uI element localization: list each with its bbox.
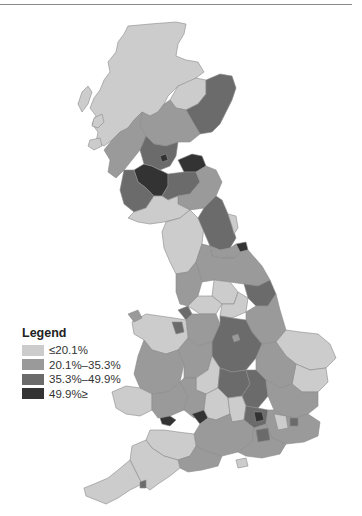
region-london-inner (254, 412, 264, 422)
legend-swatch (22, 345, 44, 356)
region-mull (88, 138, 102, 150)
region-isle-of-wight (236, 458, 248, 468)
map-legend: Legend ≤20.1% 20.1%–35.3% 35.3%–49.9% 49… (22, 326, 121, 401)
legend-item-class-4: 49.9%≥ (22, 387, 121, 401)
region-cornwall (84, 460, 142, 504)
legend-label: ≤20.1% (49, 344, 88, 356)
gb-choropleth-map (0, 0, 362, 516)
legend-item-class-1: ≤20.1% (22, 343, 121, 357)
region-cardiff (160, 416, 176, 426)
legend-swatch (22, 374, 44, 385)
legend-label: 35.3%–49.9% (49, 373, 121, 385)
legend-item-class-2: 20.1%–35.3% (22, 358, 121, 372)
region-medway (290, 418, 298, 426)
legend-swatch (22, 359, 44, 370)
legend-item-class-3: 35.3%–49.9% (22, 372, 121, 386)
legend-swatch (22, 388, 44, 399)
region-surrey (256, 428, 270, 442)
legend-label: 20.1%–35.3% (49, 359, 121, 371)
legend-title: Legend (22, 326, 121, 340)
legend-label: 49.9%≥ (49, 388, 88, 400)
